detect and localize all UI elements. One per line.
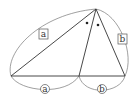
angle-bisector-diagram: a b a b [0,0,137,98]
label-side-b: b [118,34,127,44]
svg-text:b: b [120,34,126,44]
svg-text:b: b [99,84,105,94]
angle-mark-left [86,22,89,25]
label-side-a: a [39,29,48,39]
label-base-a: a [41,84,50,94]
svg-text:a: a [41,29,47,39]
triangle [11,9,125,76]
label-base-b: b [98,84,107,94]
angle-mark-right [97,24,100,27]
angle-bisector [79,9,96,76]
svg-text:a: a [42,84,48,94]
